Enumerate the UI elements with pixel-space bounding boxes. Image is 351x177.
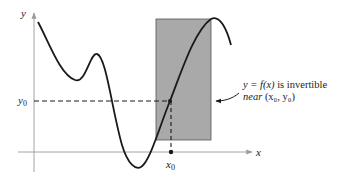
annotation-line-2: near (x₀, y₀) <box>243 91 295 103</box>
annotation-arrow <box>216 93 239 101</box>
inverse-function-diagram: y x y0 x0 y = f(x) is invertible near (x… <box>0 0 351 177</box>
point-x0-y0 <box>168 99 172 103</box>
point-x0-axis <box>169 150 173 154</box>
x-axis-label: x <box>255 146 261 158</box>
annotation-line-1: y = f(x) is invertible <box>242 79 327 91</box>
y0-label: y0 <box>17 94 27 108</box>
x0-label: x0 <box>165 158 175 172</box>
neighborhood-box <box>156 19 211 140</box>
y-axis-label: y <box>20 7 26 19</box>
